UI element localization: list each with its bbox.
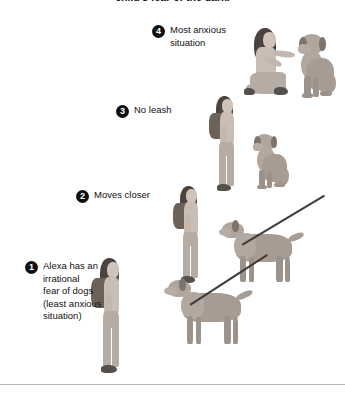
- shin-folded: [246, 83, 280, 94]
- arm: [221, 124, 227, 148]
- leg-split: [226, 156, 227, 186]
- dog-front-leg: [259, 170, 265, 188]
- dog-front-leg-far: [313, 78, 319, 97]
- caption-clipped: child's fear of the dark.: [0, 0, 345, 7]
- step-badge-3: 3: [116, 105, 129, 118]
- head: [263, 32, 276, 48]
- dog-chest: [301, 51, 322, 79]
- dog-tail: [236, 289, 254, 301]
- illustration-stage: [0, 0, 345, 396]
- dog-paw-far: [274, 183, 285, 187]
- step-text-3: No leash: [134, 104, 172, 117]
- dog-haunch: [273, 166, 289, 186]
- head: [186, 189, 197, 203]
- dog-standing-leashed-1: [168, 270, 278, 356]
- dog-paw: [257, 185, 267, 189]
- step-badge-2: 2: [76, 190, 89, 203]
- backpack: [173, 203, 187, 229]
- dog-head: [300, 34, 324, 54]
- dog-ear: [232, 220, 239, 232]
- dog-ear: [299, 37, 307, 52]
- scene-3-no-leash: [205, 96, 315, 194]
- dog-ear: [254, 136, 261, 149]
- dog-paw: [302, 93, 313, 98]
- dog-chest: [181, 292, 204, 319]
- leg-split: [190, 246, 191, 278]
- step-badge-1: 1: [25, 261, 38, 274]
- dog-front-leg-far: [249, 257, 254, 282]
- dog-rear-leg-far: [233, 317, 238, 344]
- dog-head: [222, 222, 244, 238]
- arm: [185, 214, 191, 238]
- torso: [256, 47, 276, 75]
- legs: [183, 232, 198, 278]
- torso: [184, 202, 198, 234]
- dog-muzzle: [164, 287, 177, 295]
- dog-muzzle: [253, 143, 264, 151]
- dog-front-leg-far: [196, 317, 201, 344]
- person-kneeling: [240, 28, 298, 100]
- dog-sitting-petted: [290, 34, 345, 100]
- dog-ear-far: [271, 136, 277, 148]
- scene-1-irrational-fear: [88, 258, 345, 386]
- step-text-1: Alexa has an irrational fear of dogs (le…: [43, 260, 102, 323]
- hair: [254, 28, 276, 62]
- step-label-1[interactable]: 1 Alexa has an irrational fear of dogs (…: [25, 260, 109, 323]
- dog-body: [306, 58, 334, 90]
- step-text-2: Moves closer: [94, 189, 150, 202]
- hair: [216, 96, 233, 122]
- leg-split: [111, 328, 112, 367]
- leash: [242, 195, 325, 246]
- dog-paw-far: [320, 91, 332, 96]
- head: [222, 99, 233, 113]
- person-standing-3: [205, 96, 245, 194]
- dog-front-leg: [187, 316, 193, 344]
- backpack: [209, 113, 223, 139]
- dog-rear-leg: [224, 316, 231, 344]
- legs: [219, 142, 234, 186]
- dog-head: [168, 280, 191, 297]
- legs-folded: [250, 72, 286, 92]
- step-label-4[interactable]: 4 Most anxious situation: [152, 24, 244, 49]
- step-label-3[interactable]: 3 No leash: [116, 104, 198, 118]
- bottom-rule: [0, 384, 345, 385]
- step-label-2[interactable]: 2 Moves closer: [76, 189, 168, 203]
- hair: [180, 186, 197, 212]
- dog-sitting-unleashed: [249, 134, 301, 192]
- shoe-second: [244, 88, 255, 95]
- shoe: [274, 87, 288, 95]
- arm-extended: [272, 50, 296, 58]
- dog-front-leg: [304, 76, 311, 97]
- scene-2-moves-closer: [170, 186, 345, 286]
- caption-text: child's fear of the dark.: [0, 0, 345, 4]
- dog-rear-leg-far: [285, 257, 290, 282]
- dog-haunch: [318, 72, 336, 94]
- dog-front-leg-far: [267, 172, 272, 188]
- step-text-4: Most anxious situation: [170, 24, 226, 49]
- dog-tail: [287, 231, 304, 243]
- dog-body: [183, 293, 241, 322]
- person-standing-2: [170, 186, 210, 286]
- shoe: [181, 276, 195, 283]
- dog-muzzle: [219, 228, 231, 236]
- dog-body: [236, 234, 292, 262]
- dog-rear-leg: [276, 256, 283, 282]
- dog-chest: [234, 233, 256, 259]
- dog-standing-leashed-2: [222, 214, 320, 286]
- dog-chest: [257, 148, 275, 172]
- dog-head: [255, 134, 275, 151]
- dog-ear-far: [319, 37, 326, 51]
- step-badge-4: 4: [152, 25, 165, 38]
- scene-4-kneeling-petting: [240, 22, 345, 100]
- dog-muzzle: [298, 44, 311, 54]
- leash: [190, 254, 268, 305]
- shoe: [217, 184, 231, 191]
- dog-body: [262, 154, 287, 182]
- arm-support: [264, 56, 283, 68]
- torso: [220, 112, 234, 144]
- dog-ear: [179, 278, 186, 291]
- shoe: [101, 365, 117, 373]
- dog-front-leg: [240, 256, 246, 282]
